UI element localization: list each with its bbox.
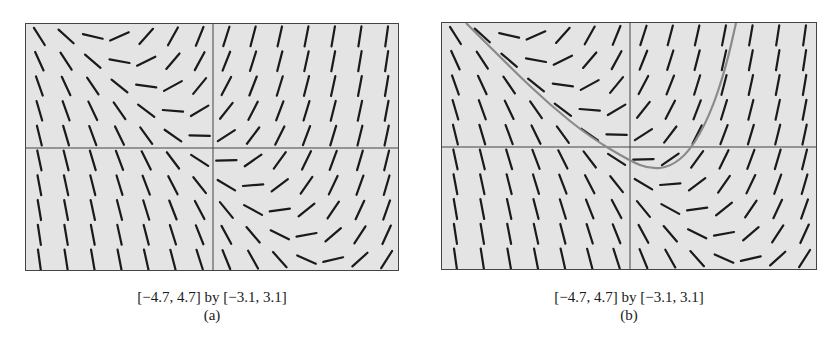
window-label-a: [−4.7, 4.7] by [−3.1, 3.1] — [25, 288, 399, 306]
slope-segment — [803, 25, 806, 45]
slope-segment — [246, 227, 259, 242]
slope-segment — [775, 125, 780, 145]
sub-label-a: (a) — [25, 306, 399, 324]
slope-segment — [304, 76, 309, 96]
slope-segment — [477, 52, 488, 69]
slope-segment — [109, 59, 129, 63]
slope-segment — [64, 225, 67, 245]
slope-segment — [384, 151, 389, 171]
slope-segment — [635, 129, 652, 140]
slope-segment — [331, 101, 336, 121]
slope-segment — [167, 152, 179, 168]
slope-segment — [587, 249, 592, 269]
slope-segment — [218, 130, 235, 141]
slope-segment — [694, 75, 700, 94]
slope-segment — [169, 201, 176, 220]
slope-segment — [303, 126, 310, 145]
slope-segment — [664, 127, 676, 143]
slope-segment — [749, 25, 752, 45]
slope-segment — [247, 127, 259, 143]
slope-segment — [800, 225, 808, 244]
slope-segment — [38, 200, 41, 220]
slope-segment — [249, 77, 256, 96]
slope-segment — [356, 176, 363, 195]
slope-segment — [166, 53, 179, 68]
slope-segment — [640, 26, 646, 45]
slope-segment — [743, 227, 758, 240]
slope-segment — [803, 50, 806, 70]
slope-segment — [557, 126, 569, 142]
slope-segment — [87, 78, 98, 95]
slope-segment — [117, 225, 121, 245]
slope-segment — [165, 130, 182, 142]
slope-segment — [695, 50, 700, 70]
slope-segment — [385, 76, 388, 96]
slope-segment — [195, 52, 205, 70]
slope-segment — [90, 151, 96, 170]
slope-segment — [532, 125, 541, 143]
slope-segment — [61, 53, 72, 70]
slope-segment — [297, 255, 316, 263]
slope-segment — [606, 134, 626, 135]
slope-segment — [248, 251, 258, 269]
slope-segment — [63, 101, 70, 120]
slope-segment — [720, 125, 727, 144]
slope-segment — [507, 224, 511, 244]
slope-segment — [197, 250, 203, 269]
slope-segment — [273, 252, 287, 267]
slope-segment — [533, 174, 539, 193]
slope-segment — [803, 100, 807, 120]
slope-segment — [59, 30, 74, 44]
slope-segment — [801, 199, 808, 218]
slope-segment — [296, 233, 316, 237]
slope-segment — [277, 51, 282, 71]
slope-segment — [356, 201, 365, 219]
slope-segment — [38, 250, 41, 270]
slope-segment — [553, 84, 573, 87]
slope-segment — [561, 249, 565, 269]
slope-segment — [144, 225, 149, 245]
slope-segment — [37, 175, 41, 195]
slope-segment — [451, 51, 459, 70]
slope-segment — [481, 224, 484, 244]
window-caption-b: [−4.7, 4.7] by [−3.1, 3.1] (b) — [441, 288, 817, 324]
slope-segment — [223, 27, 229, 46]
slope-segment — [748, 100, 753, 120]
slope-segment — [193, 177, 206, 193]
slope-segment — [774, 175, 781, 194]
slope-segment — [331, 26, 334, 46]
slope-segment — [330, 126, 336, 145]
sub-label-b: (b) — [441, 306, 817, 324]
slope-segment — [585, 175, 594, 193]
slope-segment — [328, 202, 339, 219]
slope-segment — [741, 256, 761, 261]
slope-segment — [453, 125, 458, 145]
slope-segment — [244, 205, 262, 215]
slope-segment — [91, 225, 95, 245]
slope-segment — [640, 249, 648, 268]
window-label-b: [−4.7, 4.7] by [−3.1, 3.1] — [441, 288, 817, 306]
slope-segment — [453, 100, 459, 120]
slope-segment — [610, 77, 623, 93]
slope-segment — [163, 110, 183, 112]
slope-segment — [114, 102, 126, 119]
slope-segment — [220, 103, 233, 119]
slope-segment — [89, 126, 96, 145]
slope-segment — [452, 75, 459, 94]
slope-segment — [479, 125, 485, 145]
slope-segment — [613, 26, 621, 45]
slope-segment — [301, 177, 313, 194]
slope-segment — [222, 226, 232, 244]
slope-segment — [143, 200, 149, 219]
slope-segment — [580, 109, 600, 111]
slope-segment — [137, 57, 155, 66]
slope-segment — [34, 28, 45, 45]
slope-segment — [666, 101, 675, 119]
slope-segment — [688, 229, 706, 238]
slope-segment — [139, 29, 153, 44]
slope-segment — [38, 225, 41, 245]
slope-segment — [35, 52, 43, 71]
slope-segment — [144, 250, 148, 270]
slope-segment — [581, 80, 599, 90]
slope-segment — [136, 85, 156, 88]
